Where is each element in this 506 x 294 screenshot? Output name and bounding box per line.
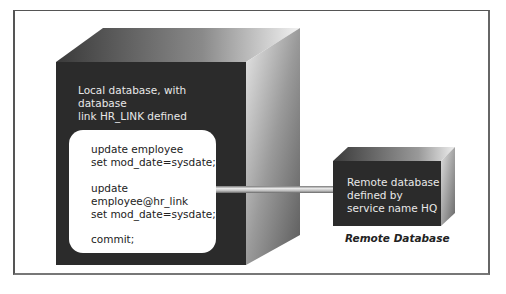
code-line: set mod_date=sysdate; xyxy=(91,208,216,221)
code-line: update employee xyxy=(91,143,183,156)
database-link-pipe xyxy=(196,186,333,193)
code-line: set mod_date=sysdate; xyxy=(91,156,216,169)
remote-box-top xyxy=(333,147,455,161)
sql-code-panel: update employee set mod_date=sysdate; up… xyxy=(69,130,216,253)
local-label-line: link HR_LINK defined xyxy=(78,110,238,123)
code-line: update xyxy=(91,182,128,195)
remote-database-label: Remote database defined by service name … xyxy=(347,176,447,215)
local-label-line: Local database, with database xyxy=(78,84,238,110)
remote-label-line: service name HQ xyxy=(347,202,447,215)
remote-label-line: Remote database xyxy=(347,176,447,189)
code-line: commit; xyxy=(91,233,134,246)
code-line: employee@hr_link xyxy=(91,195,188,208)
remote-label-line: defined by xyxy=(347,189,447,202)
local-box-side xyxy=(246,28,300,265)
remote-database-caption: Remote Database xyxy=(345,232,450,244)
local-database-label: Local database, with database link HR_LI… xyxy=(78,84,238,123)
